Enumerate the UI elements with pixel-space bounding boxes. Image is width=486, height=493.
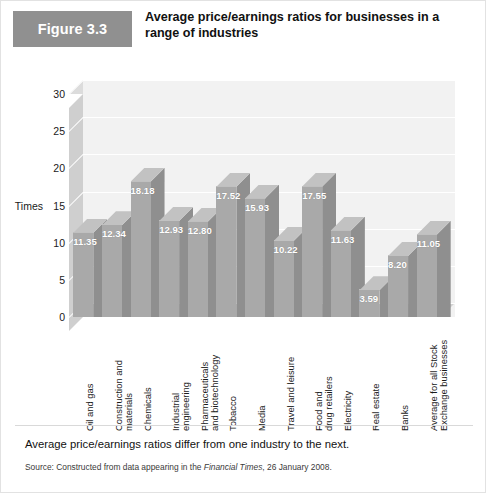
x-axis-label: Electricity [343,335,353,431]
x-axis-label: Real estate [371,335,381,431]
bar-value-label: 12.80 [188,225,212,236]
bar-column: 11.05 [417,221,451,317]
bar-value-label: 11.63 [331,234,354,245]
x-axis-label: Construction and materials [114,335,135,431]
bar-value-label: 17.55 [302,190,326,201]
footer-divider [15,425,473,426]
x-axis-label: Industrial engineering [171,335,192,431]
figure-number-badge: Figure 3.3 [13,11,132,47]
y-tick-30: 30 [39,88,65,100]
x-axis-label: Banks [400,335,410,431]
bar-value-label: 18.18 [131,185,155,196]
x-axis-label: Tobacco [228,335,238,431]
bar-value-label: 12.93 [159,224,183,235]
y-axis-title: Times [11,200,43,212]
bar-front-face [302,186,322,317]
x-axis-label: Chemicals [143,335,153,431]
gridline-20 [83,154,455,155]
y-tick-0: 0 [39,311,65,323]
chart-plot-area: 051015202530 Times 11.3512.3418.1812.931… [1,59,486,422]
bar-value-label: 3.59 [359,293,378,304]
figure-caption: Average price/earnings ratios differ fro… [25,438,465,450]
bar-value-label: 10.22 [274,244,298,255]
bar-value-label: 11.35 [73,236,96,247]
bar-side-face [437,221,451,317]
bar-front-face [131,181,151,317]
bar-front-face [216,186,236,317]
figure-title: Average price/earnings ratios for busine… [145,10,475,41]
y-tick-10: 10 [39,237,65,249]
x-axis-label: Travel and leisure [286,335,296,431]
x-axis-label: Media [257,335,267,431]
source-suffix: , 26 January 2008. [262,462,331,472]
bar-front-face [245,198,265,317]
x-axis-label: Pharmaceuticals and biotechnology [200,335,221,431]
bar-value-label: 12.34 [102,228,126,239]
x-axis-label: Food and drug retailers [314,335,335,431]
figure-header: Figure 3.3 Average price/earnings ratios… [1,1,486,57]
gridline-25 [83,117,455,118]
bar-value-label: 17.52 [216,190,240,201]
x-axis-label: Oil and gas [85,335,95,431]
source-prefix: Source: Constructed from data appearing … [25,462,204,472]
y-tick-5: 5 [39,274,65,286]
source-publication: Financial Times [204,462,263,472]
y-tick-20: 20 [39,162,65,174]
bar-value-label: 15.93 [245,202,269,213]
gridline-30 [83,80,455,81]
figure-container: Figure 3.3 Average price/earnings ratios… [0,0,486,493]
x-axis-label: Average for all Stock Exchange businesse… [429,335,450,431]
bar-value-label: 8.20 [388,259,407,270]
bar-value-label: 11.05 [417,238,440,249]
y-tick-25: 25 [39,125,65,137]
figure-source: Source: Constructed from data appearing … [25,462,465,472]
